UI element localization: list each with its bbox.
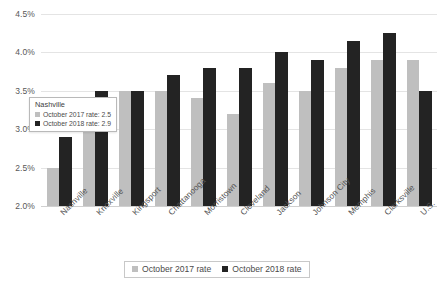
bar-group[interactable] (263, 14, 288, 206)
tooltip-value-2018: October 2018 rate: 2.9 (43, 119, 111, 128)
legend-item-2018[interactable]: October 2018 rate (222, 264, 301, 274)
bar-group[interactable] (299, 14, 324, 206)
tooltip-row-2018: October 2018 rate: 2.9 (35, 119, 111, 128)
y-axis-tick-label: 2.0% (15, 201, 35, 211)
bar-group[interactable] (371, 14, 396, 206)
bar[interactable] (47, 168, 60, 206)
bar[interactable] (311, 60, 324, 206)
bar[interactable] (419, 91, 432, 206)
y-axis-tick-label: 4.0% (15, 47, 35, 57)
y-axis-tick-label: 3.5% (15, 86, 35, 96)
chart-legend: October 2017 rate October 2018 rate (124, 261, 310, 278)
tooltip-title: Nashville (35, 100, 111, 109)
y-axis-tick-label: 4.5% (15, 9, 35, 19)
legend-swatch-icon-2018 (222, 266, 228, 272)
legend-item-2017[interactable]: October 2017 rate (132, 264, 211, 274)
bar-group[interactable] (119, 14, 144, 206)
bar-group[interactable] (155, 14, 180, 206)
bar[interactable] (131, 91, 144, 206)
bar[interactable] (239, 68, 252, 206)
tooltip-swatch-icon-2017 (35, 112, 40, 117)
bar[interactable] (371, 60, 384, 206)
tooltip-value-2017: October 2017 rate: 2.5 (43, 110, 111, 119)
bar[interactable] (299, 91, 312, 206)
x-axis: NashvilleKnoxvilleKingsportChattanoogaMo… (41, 206, 437, 266)
data-tooltip: Nashville October 2017 rate: 2.5 October… (29, 97, 117, 132)
bar-chart: 4.5%4.0%3.5%3.0%2.5%2.0% NashvilleKnoxvi… (0, 0, 443, 289)
bar[interactable] (383, 33, 396, 206)
tooltip-swatch-icon-2018 (35, 121, 40, 126)
legend-swatch-icon-2017 (132, 266, 138, 272)
bar-group[interactable] (407, 14, 432, 206)
tooltip-row-2017: October 2017 rate: 2.5 (35, 110, 111, 119)
bar[interactable] (167, 75, 180, 206)
bar-group[interactable] (227, 14, 252, 206)
bar[interactable] (275, 52, 288, 206)
legend-label-2018: October 2018 rate (232, 264, 301, 274)
y-axis-tick-label: 2.5% (15, 163, 35, 173)
legend-label-2017: October 2017 rate (142, 264, 211, 274)
bar[interactable] (59, 137, 72, 206)
